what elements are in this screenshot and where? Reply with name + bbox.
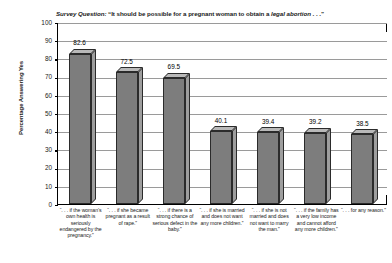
y-tick-mark [55, 96, 58, 97]
bar-value-label: 40.1 [202, 118, 240, 124]
bar-side-face [279, 127, 284, 204]
y-axis-title: Percentage Answering Yes [18, 38, 24, 158]
bar-side-face [138, 67, 143, 204]
x-axis-labels: “. . . if the woman’s own health is seri… [57, 207, 387, 263]
y-tick-label: 20 [26, 165, 52, 171]
chart-title-emphasis: legal abortion [271, 10, 311, 17]
bar: 40.1 [210, 131, 232, 204]
y-tick-mark [55, 78, 58, 79]
x-category-label: “. . . if she is married and does not wa… [199, 207, 244, 226]
y-tick-label: 50 [26, 111, 52, 117]
x-category-label: “. . . if the family has a very low inco… [294, 207, 339, 232]
bar-front-face [351, 134, 373, 204]
y-tick-mark [55, 132, 58, 133]
x-category-label: “. . . if she became pregnant as a resul… [105, 207, 150, 226]
y-tick-label: 90 [26, 38, 52, 44]
bar-side-face [185, 73, 190, 204]
bar-front-face [210, 131, 232, 204]
y-tick-mark [55, 187, 58, 188]
bar-side-face [91, 49, 96, 204]
chart-title-label: Survey Question: [56, 10, 106, 17]
bar-chart: Survey Question: “It should be possible … [0, 0, 392, 263]
y-tick-label: 40 [26, 129, 52, 135]
bar: 38.5 [351, 134, 373, 204]
bar-value-label: 39.2 [296, 119, 334, 125]
y-tick-label: 60 [26, 93, 52, 99]
chart-title: Survey Question: “It should be possible … [56, 9, 388, 18]
bar-side-face [326, 128, 331, 204]
bar-side-face [232, 126, 237, 204]
y-tick-mark [55, 150, 58, 151]
y-tick-label: 70 [26, 74, 52, 80]
bar-value-label: 38.5 [343, 121, 381, 127]
y-tick-label: 30 [26, 147, 52, 153]
bar-front-face [163, 78, 185, 204]
x-category-label: “. . . if the woman’s own health is seri… [58, 207, 103, 238]
chart-title-text-after: . . .” [311, 10, 324, 17]
bar: 72.5 [116, 72, 138, 204]
bar-value-label: 82.6 [61, 40, 99, 46]
y-tick-mark [55, 114, 58, 115]
bar-front-face [257, 132, 279, 204]
bar-front-face [304, 133, 326, 204]
bar-value-label: 39.4 [249, 119, 287, 125]
y-tick-label: 0 [26, 202, 52, 208]
bar: 82.6 [69, 54, 91, 204]
bar-front-face [69, 54, 91, 204]
y-tick-mark [55, 205, 58, 206]
x-category-label: “. . . if there is a strong chance of se… [152, 207, 197, 232]
y-tick-label: 80 [26, 56, 52, 62]
bar: 39.2 [304, 133, 326, 204]
bar-value-label: 72.5 [108, 59, 146, 65]
y-tick-label: 10 [26, 184, 52, 190]
y-tick-mark [55, 23, 58, 24]
plot-area: 82.672.569.540.139.439.238.5 [57, 23, 387, 205]
bars-layer: 82.672.569.540.139.439.238.5 [58, 23, 387, 204]
bar-front-face [116, 72, 138, 204]
bar: 69.5 [163, 78, 185, 204]
y-tick-label: 100 [26, 20, 52, 26]
x-category-label: “. . . if she is not married and does no… [247, 207, 292, 232]
bar-side-face [373, 129, 378, 204]
x-category-label: “. . . for any reason.” [341, 207, 386, 213]
bar-value-label: 69.5 [155, 64, 193, 70]
y-tick-mark [55, 41, 58, 42]
bar: 39.4 [257, 132, 279, 204]
chart-title-text-before: “It should be possible for a pregnant wo… [106, 10, 271, 17]
y-tick-mark [55, 59, 58, 60]
y-tick-mark [55, 169, 58, 170]
